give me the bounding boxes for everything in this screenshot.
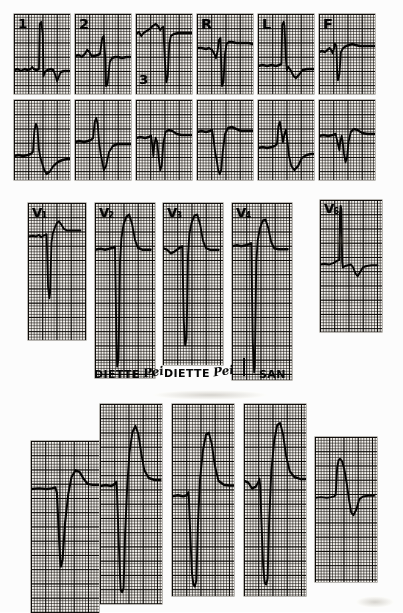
ecg-strip-lower-strips-2 [100,404,162,604]
paper-brand-text-1: DIETTE [94,368,140,381]
ecg-waveform [14,100,70,180]
lead-label-V6: V6 [324,202,339,217]
ecg-waveform [172,404,234,596]
lead-label-2: 2 [79,17,88,31]
lead-label-V3: V3 [167,206,182,221]
paper-brand-script-2: Pei [212,363,235,380]
ecg-strip-lower-strips-4 [244,404,306,596]
ecg-strip-limb-leads-row-2-5 [258,100,314,180]
lead-label-L: L [262,17,271,31]
ecg-waveform [315,437,377,582]
ecg-waveform [244,404,306,596]
paper-tick-mark [243,358,245,376]
lead-label-F: F [323,17,332,31]
ecg-strip-V3 [163,203,223,365]
ecg-strip-limb-leads-row-2-6 [319,100,375,180]
ecg-strip-limb-leads-row-2-2 [75,100,131,180]
ecg-waveform [197,100,253,180]
ecg-waveform [163,203,223,365]
ecg-waveform [136,100,192,180]
paper-brand-text-2: DIETTE [164,367,210,380]
ecg-strip-limb-leads-row-2-1 [14,100,70,180]
ecg-strip-lower-strips-5 [315,437,377,582]
lead-label-3: 3 [139,73,148,86]
lead-label-V4: V4 [236,206,251,221]
ecg-waveform [100,404,162,604]
lead-label-1: 1 [18,17,27,30]
ecg-strip-lower-strips-3 [172,404,234,596]
paper-brand-text-3: SAN [259,368,286,381]
ecg-waveform [75,100,131,180]
lead-label-V2: V2 [99,206,114,221]
ecg-strip-limb-leads-row-2-3 [136,100,192,180]
ecg-strip-V4 [232,203,292,380]
ecg-waveform [31,441,99,613]
ecg-waveform [232,203,292,380]
ecg-waveform [258,100,314,180]
lead-label-R: R [201,17,211,31]
ecg-waveform [319,100,375,180]
ecg-waveform [95,203,155,378]
paper-brand-script-1: Pei [142,364,165,381]
ecg-strip-limb-leads-row-2-4 [197,100,253,180]
ecg-strip-V2 [95,203,155,378]
lead-label-V1: V1 [32,206,47,221]
ecg-waveform [320,200,382,332]
ecg-strip-V1 [28,203,86,340]
ecg-waveform [28,203,86,340]
ecg-strip-V6 [320,200,382,332]
ecg-strip-lower-strips-1 [31,441,99,613]
